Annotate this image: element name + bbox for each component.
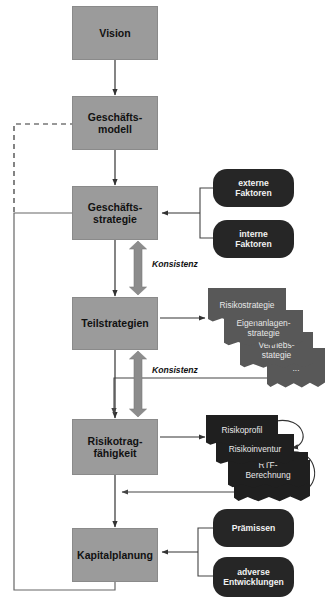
process-box-teilstrategien[interactable]: Teilstrategien [72,297,158,350]
wide-double-arrow-konsistenz-oben [130,241,147,295]
label-line-2: strategie [247,328,279,338]
label-line-2: stategie [262,350,291,360]
process-box-geschaeftsstrategie-label: Geschäfts- strategie [88,201,142,225]
factor-pill-interne-faktoren[interactable]: interne Faktoren [213,220,294,258]
label-line-2: strategie [93,213,137,225]
label-line-2: modell [98,123,132,135]
process-box-vision[interactable]: Vision [72,6,158,60]
label-line-1: externe [238,178,269,188]
process-box-risikotragfaehigkeit[interactable]: Risikotrag- fähigkeit [72,419,158,475]
strategy-doc-risikostrategie[interactable]: Risikostrategie [208,288,286,324]
factor-pill-interne-faktoren-label: interne Faktoren [235,229,271,249]
label-line-1: adverse [237,567,270,577]
planning-pill-adverse-entwicklungen-label: adverse Entwicklungen [223,567,284,587]
strategy-doc-vertriebsstrategie-label: Vertriebs- stategie [259,341,295,360]
process-box-teilstrategien-label: Teilstrategien [81,317,149,329]
consistency-label-bottom: Konsistenz [152,365,198,375]
planning-pill-adverse-entwicklungen[interactable]: adverse Entwicklungen [213,557,294,597]
wide-double-arrow-konsistenz-unten [130,351,147,417]
factor-pill-externe-faktoren-label: externe Faktoren [235,178,271,198]
label-line-1: Geschäfts- [88,111,142,123]
label-line-1: Geschäfts- [88,201,142,213]
label-line-2: Faktoren [235,188,271,198]
strategy-doc-weitere-strategien-label: ... [293,364,300,374]
risk-doc-risikoinventur-label: Risikoinventur [229,445,282,455]
label-line-1: Risikotrag- [88,435,143,447]
process-box-risikotragfaehigkeit-label: Risikotrag- fähigkeit [88,435,143,459]
process-box-vision-label: Vision [99,27,130,39]
label-line-2: Faktoren [235,239,271,249]
process-box-geschaeftsmodell[interactable]: Geschäfts- modell [72,96,158,150]
strategy-doc-risikostrategie-label: Risikostrategie [220,301,275,311]
process-box-geschaeftsstrategie[interactable]: Geschäfts- strategie [72,186,158,240]
label-line-2: fähigkeit [93,447,136,459]
label-line-2: Berechnung [245,470,290,480]
process-box-kapitalplanung[interactable]: Kapitalplanung [72,528,158,582]
factor-pill-externe-faktoren[interactable]: externe Faktoren [213,169,294,207]
risk-doc-risikoprofil-label: Risikoprofil [222,426,263,436]
risk-doc-rtf-berechnung-label: RTF- Berechnung [245,461,290,480]
label-line-1: Eigenanlagen- [236,318,290,328]
planning-pill-praemissen[interactable]: Prämissen [213,509,294,547]
label-line-1: interne [239,229,268,239]
label-line-2: Entwicklungen [223,577,284,587]
planning-pill-praemissen-label: Prämissen [232,523,275,533]
risk-doc-risikoprofil[interactable]: Risikoprofil [206,415,278,447]
strategy-doc-eigenanlagenstrategie-label: Eigenanlagen- strategie [236,319,290,338]
flowchart-diagram: Vision Geschäfts- modell Geschäfts- stra… [0,0,325,605]
consistency-label-top: Konsistenz [152,259,198,269]
process-box-kapitalplanung-label: Kapitalplanung [77,549,153,561]
process-box-geschaeftsmodell-label: Geschäfts- modell [88,111,142,135]
